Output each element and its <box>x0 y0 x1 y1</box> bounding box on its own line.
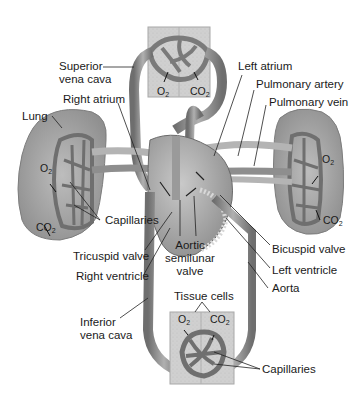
gas-co2-right-lung: CO2 <box>323 215 343 229</box>
label-left-atrium: Left atrium <box>238 60 292 73</box>
label-capillaries-tissue: Capillaries <box>262 363 316 376</box>
left-lung <box>18 110 106 240</box>
label-line: vena cava <box>59 73 111 86</box>
heart <box>148 135 233 256</box>
label-capillaries-lung: Capillaries <box>105 214 159 227</box>
label-line: vena cava <box>80 329 132 342</box>
gas-subscript: 2 <box>52 227 56 234</box>
label-aortic-semilunar-valve: Aortic semilunar valve <box>160 239 220 278</box>
gas-o2-upper: O2 <box>157 86 169 100</box>
gas-co2-upper: CO2 <box>190 86 210 100</box>
label-line: Inferior <box>80 316 132 329</box>
gas-symbol: O <box>322 153 330 165</box>
gas-symbol: CO <box>36 221 52 233</box>
gas-symbol: O <box>178 313 186 325</box>
gas-symbol: CO <box>323 214 339 226</box>
gas-subscript: 2 <box>186 319 190 326</box>
circulatory-diagram: Superior vena cava Right atrium Lung Cap… <box>0 0 360 401</box>
gas-o2-left-lung: O2 <box>40 163 52 177</box>
diagram-artwork <box>0 0 360 401</box>
gas-symbol: CO <box>190 85 206 97</box>
gas-co2-left-lung: CO2 <box>36 222 56 236</box>
label-inferior-vena-cava: Inferior vena cava <box>80 316 132 342</box>
gas-symbol: O <box>40 162 48 174</box>
label-superior-vena-cava: Superior vena cava <box>59 60 111 86</box>
gas-subscript: 2 <box>48 168 52 175</box>
label-right-atrium: Right atrium <box>63 93 125 106</box>
label-pulmonary-vein: Pulmonary vein <box>269 96 348 109</box>
label-bicuspid-valve: Bicuspid valve <box>272 243 346 256</box>
gas-subscript: 2 <box>206 91 210 98</box>
gas-co2-lower: CO2 <box>210 314 230 328</box>
gas-symbol: CO <box>210 313 226 325</box>
label-aorta: Aorta <box>272 282 300 295</box>
gas-o2-lower: O2 <box>178 314 190 328</box>
label-tissue-cells: Tissue cells <box>174 290 234 303</box>
gas-subscript: 2 <box>165 91 169 98</box>
gas-o2-right-lung: O2 <box>322 154 334 168</box>
label-right-ventricle: Right ventricle <box>76 270 149 283</box>
gas-symbol: O <box>157 85 165 97</box>
label-tricuspid-valve: Tricuspid valve <box>73 250 149 263</box>
label-line: valve <box>160 265 220 278</box>
label-left-ventricle: Left ventricle <box>272 264 337 277</box>
label-line: semilunar <box>160 252 220 265</box>
label-lung: Lung <box>22 110 48 123</box>
label-line: Superior <box>59 60 111 73</box>
gas-subscript: 2 <box>339 220 343 227</box>
label-pulmonary-artery: Pulmonary artery <box>256 78 344 91</box>
label-line: Aortic <box>160 239 220 252</box>
gas-subscript: 2 <box>226 319 230 326</box>
gas-subscript: 2 <box>330 159 334 166</box>
